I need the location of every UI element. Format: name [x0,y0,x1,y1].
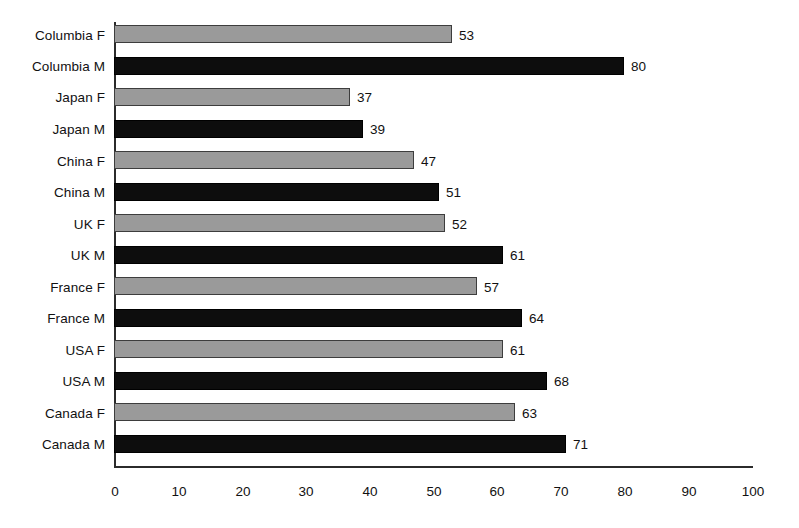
bar-value-label: 61 [510,249,525,263]
bar-value-label: 68 [554,375,569,389]
x-tick-label: 30 [298,485,313,499]
bar-france-m [114,309,522,327]
bar-value-label: 57 [484,281,499,295]
category-label: Japan M [53,123,105,137]
bar-uk-m [114,246,503,264]
plot-area: Columbia F Columbia M Japan F Japan M Ch… [0,0,799,528]
bar-usa-f [114,340,503,358]
x-tick-label: 80 [617,485,632,499]
bar-japan-f [114,88,350,106]
bar-value-label: 80 [631,60,646,74]
x-tick-label: 0 [111,485,119,499]
bar-chart: Columbia F Columbia M Japan F Japan M Ch… [0,0,799,528]
bar-columbia-f [114,25,452,43]
bar-china-f [114,151,414,169]
bar-value-label: 63 [522,407,537,421]
category-label: France F [50,281,105,295]
bar-canada-m [114,435,566,453]
bar-usa-m [114,372,547,390]
x-tick-label: 40 [362,485,377,499]
category-label: China F [57,155,105,169]
category-label: Canada M [42,438,105,452]
category-label: UK M [71,249,105,263]
category-label: Columbia F [35,29,105,43]
bar-value-label: 52 [452,218,467,232]
category-label: Canada F [45,407,105,421]
x-tick-label: 60 [489,485,504,499]
bar-canada-f [114,403,515,421]
category-label: China M [54,186,105,200]
x-tick-label: 50 [426,485,441,499]
bar-columbia-m [114,57,624,75]
category-label: UK F [74,218,105,232]
bar-value-label: 64 [529,312,544,326]
x-tick-label: 100 [742,485,765,499]
bar-value-label: 37 [357,91,372,105]
x-axis-line [114,466,753,468]
category-label: USA F [65,344,105,358]
x-tick-label: 20 [235,485,250,499]
bar-value-label: 61 [510,344,525,358]
bar-uk-f [114,214,445,232]
category-label: Japan F [56,91,105,105]
bar-value-label: 51 [446,186,461,200]
bar-japan-m [114,120,363,138]
x-tick-label: 90 [681,485,696,499]
x-tick-label: 10 [171,485,186,499]
bar-value-label: 53 [459,29,474,43]
bar-value-label: 71 [573,438,588,452]
bar-value-label: 39 [370,123,385,137]
bar-france-f [114,277,477,295]
category-label: USA M [62,375,105,389]
bar-value-label: 47 [421,155,436,169]
category-label: France M [47,312,105,326]
x-tick-label: 70 [553,485,568,499]
category-label: Columbia M [32,60,105,74]
bar-china-m [114,183,439,201]
